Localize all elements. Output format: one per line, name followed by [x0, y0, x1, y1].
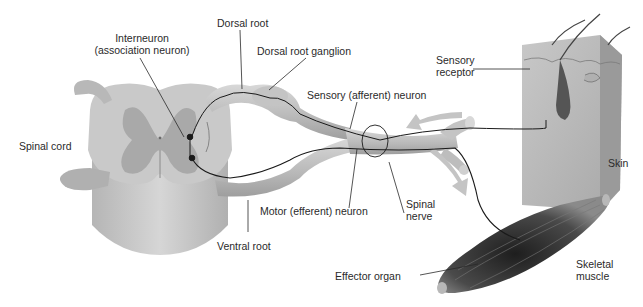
label-skin: Skin — [608, 157, 628, 169]
label-motor-neuron: Motor (efferent) neuron — [260, 205, 368, 217]
label-skeletal-muscle-line2: muscle — [576, 270, 613, 282]
label-sensory-receptor-line1: Sensory — [436, 54, 475, 66]
label-skeletal-muscle-line1: Skeletal — [576, 258, 613, 270]
spinal-nerve-body — [205, 84, 475, 196]
label-interneuron: Interneuron (association neuron) — [86, 32, 198, 56]
label-spinal-cord: Spinal cord — [19, 140, 72, 152]
label-interneuron-line1: Interneuron — [86, 32, 198, 44]
label-skeletal-muscle: Skeletal muscle — [576, 258, 613, 282]
label-interneuron-line2: (association neuron) — [86, 44, 198, 56]
label-dorsal-root: Dorsal root — [217, 17, 268, 29]
label-effector-organ: Effector organ — [335, 270, 401, 282]
label-spinal-nerve-line1: Spinal — [406, 198, 435, 210]
label-sensory-receptor-line2: receptor — [436, 66, 475, 78]
label-ventral-root: Ventral root — [217, 240, 271, 252]
label-spinal-nerve: Spinal nerve — [406, 198, 435, 222]
label-sensory-neuron: Sensory (afferent) neuron — [307, 89, 426, 101]
neuron-pathways — [187, 92, 546, 240]
skin-block — [522, 14, 630, 212]
label-spinal-nerve-line2: nerve — [406, 210, 435, 222]
label-sensory-receptor: Sensory receptor — [436, 54, 475, 78]
reflex-arc-diagram: Dorsal root Interneuron (association neu… — [0, 0, 643, 307]
label-dorsal-root-ganglion: Dorsal root ganglion — [257, 45, 351, 57]
spinal-cord — [60, 80, 232, 255]
